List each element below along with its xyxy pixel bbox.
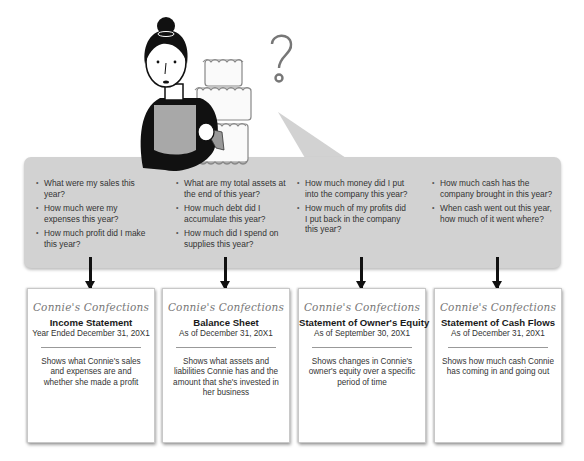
- questions-income: What were my sales this year? How much w…: [36, 178, 154, 254]
- arrow-down-icon: [496, 257, 499, 289]
- statement-description: Shows changes in Connie's owner's equity…: [306, 357, 418, 388]
- company-name: Connie's Confections: [299, 301, 425, 313]
- company-name: Connie's Confections: [435, 301, 561, 313]
- statement-description: Shows what assets and liabilities Connie…: [170, 357, 282, 399]
- card-cash-flows: Connie's Confections Statement of Cash F…: [434, 288, 562, 443]
- question-item: How much money did I put into the compan…: [297, 178, 409, 199]
- question-item: How much debt did I accumulate this year…: [176, 203, 288, 224]
- card-owners-equity: Connie's Confections Statement of Owner'…: [298, 288, 426, 443]
- question-item: How much cash has the company brought in…: [432, 178, 560, 199]
- company-name: Connie's Confections: [28, 301, 154, 313]
- statement-title: Balance Sheet: [163, 317, 289, 328]
- statement-description: Shows how much cash Connie has coming in…: [442, 357, 554, 378]
- question-item: When cash went out this year, how much o…: [432, 203, 560, 224]
- statement-title: Statement of Cash Flows: [435, 317, 561, 328]
- statement-title: Income Statement: [28, 317, 154, 328]
- divider: [176, 347, 276, 348]
- statement-title: Statement of Owner's Equity: [299, 317, 425, 328]
- question-item: How much were my expenses this year?: [36, 203, 154, 224]
- statement-period: As of December 31, 20X1: [435, 329, 561, 338]
- card-income-statement: Connie's Confections Income Statement Ye…: [27, 288, 155, 443]
- question-item: How much of my profits did I put back in…: [297, 203, 409, 235]
- divider: [312, 347, 412, 348]
- question-mark-icon: [272, 36, 291, 82]
- statement-description: Shows what Connie's sales and expenses a…: [35, 357, 147, 388]
- arrow-down-icon: [224, 257, 227, 289]
- divider: [448, 347, 548, 348]
- statement-period: As of September 30, 20X1: [299, 329, 425, 338]
- question-item: How much did I spend on supplies this ye…: [176, 228, 288, 249]
- card-balance-sheet: Connie's Confections Balance Sheet As of…: [162, 288, 290, 443]
- financial-statements-diagram: What were my sales this year? How much w…: [0, 0, 584, 461]
- arrow-down-icon: [360, 257, 363, 289]
- questions-cashflow: How much cash has the company brought in…: [432, 178, 560, 228]
- company-name: Connie's Confections: [163, 301, 289, 313]
- question-item: What were my sales this year?: [36, 178, 154, 199]
- statement-period: As of December 31, 20X1: [163, 329, 289, 338]
- questions-equity: How much money did I put into the compan…: [297, 178, 409, 239]
- statement-period: Year Ended December 31, 20X1: [28, 329, 154, 338]
- question-item: What are my total assets at the end of t…: [176, 178, 288, 199]
- arrow-down-icon: [89, 257, 92, 289]
- questions-balance: What are my total assets at the end of t…: [176, 178, 288, 254]
- divider: [41, 347, 141, 348]
- question-item: How much profit did I make this year?: [36, 228, 154, 249]
